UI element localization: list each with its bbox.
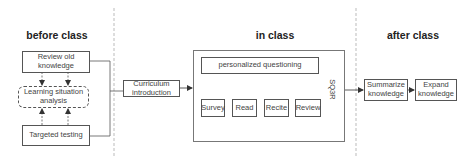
step-recite: Recite bbox=[264, 99, 289, 117]
curriculum-introduction-box: Curriculum introduction bbox=[123, 80, 180, 97]
after-class-title: after class bbox=[387, 29, 439, 41]
in-class-title: in class bbox=[256, 29, 295, 41]
expand-knowledge-box: Expand knowledge bbox=[415, 79, 457, 101]
review-old-knowledge-box: Review old knowledge bbox=[22, 51, 90, 73]
step-survey: Survey bbox=[201, 99, 225, 117]
step-review: Review bbox=[295, 99, 321, 117]
before-class-title: before class bbox=[26, 29, 87, 41]
summarize-knowledge-box: Summarize knowledge bbox=[364, 79, 408, 101]
sq3r-label: SQ3R bbox=[328, 79, 337, 99]
learning-situation-analysis-box: Learning situation analysis bbox=[18, 86, 89, 108]
personalized-questioning-box: personalized questioning bbox=[201, 57, 319, 74]
step-read: Read bbox=[232, 99, 257, 117]
targeted-testing-box: Targeted testing bbox=[22, 125, 90, 146]
